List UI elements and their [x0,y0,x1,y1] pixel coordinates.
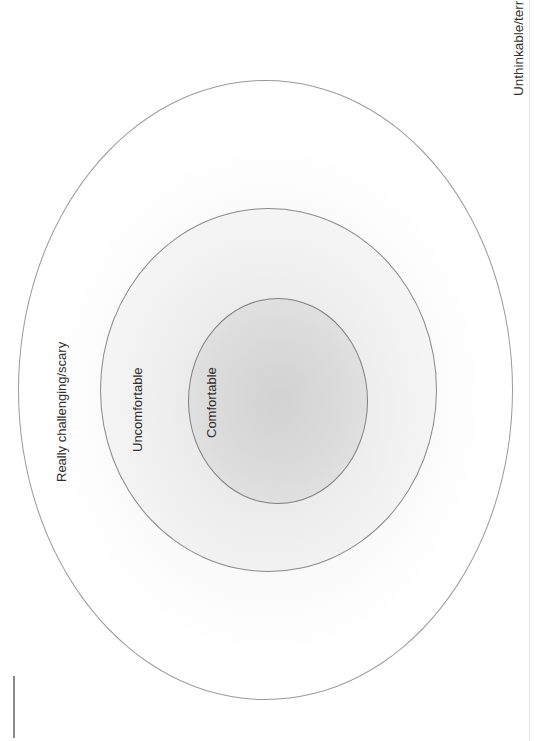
label-uncomfortable: Uncomfortable [131,367,145,452]
label-comfortable: Comfortable [205,367,219,438]
label-really-challenging: Really challenging/scary [55,342,69,482]
label-unthinkable: Unthinkable/terrifying [512,0,526,96]
comfort-zone-diagram: Unthinkable/terrifying Really challengin… [0,0,534,741]
